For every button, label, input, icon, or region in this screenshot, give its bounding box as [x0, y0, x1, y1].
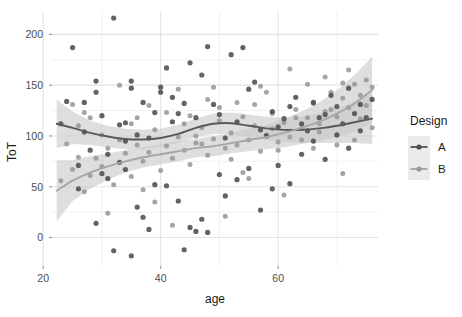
legend-item-b[interactable]: B [438, 163, 446, 175]
x-tick-label: 60 [272, 272, 284, 284]
legend-item-a[interactable]: A [438, 141, 446, 153]
y-tick-label: 50 [31, 181, 43, 193]
y-tick-label: 200 [25, 28, 43, 40]
x-tick-label: 40 [155, 272, 167, 284]
y-tick-label: 0 [37, 231, 43, 243]
y-tick-label: 150 [25, 79, 43, 91]
y-tick-label: 100 [25, 130, 43, 142]
scatter-plot-svg: 050100150200204060 ToT age Design AB [0, 0, 462, 317]
chart-container: 050100150200204060 ToT age Design AB [0, 0, 462, 317]
x-tick-label: 20 [37, 272, 49, 284]
legend-key-point [416, 166, 421, 171]
y-axis-title: ToT [5, 141, 19, 162]
legend: Design AB [408, 114, 447, 180]
x-axis-title: age [205, 292, 225, 306]
legend-key-point [416, 144, 421, 149]
legend-title: Design [410, 114, 447, 128]
